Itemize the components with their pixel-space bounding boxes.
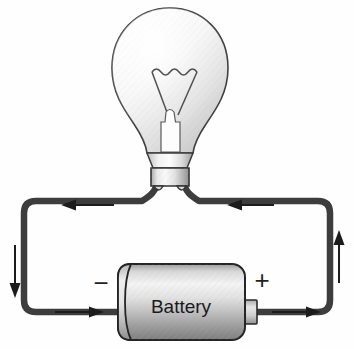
battery-negative-sign: − bbox=[93, 268, 108, 298]
circuit-diagram: Battery − + bbox=[0, 0, 354, 349]
battery-positive-sign: + bbox=[254, 265, 269, 295]
bulb-neck bbox=[147, 153, 193, 168]
circuit-diagram-canvas: Battery − + bbox=[0, 0, 354, 349]
arrow-right-side bbox=[334, 230, 345, 283]
light-bulb bbox=[112, 8, 228, 190]
battery: Battery − + bbox=[93, 264, 269, 340]
arrow-bottom-right bbox=[272, 307, 321, 318]
arrow-bottom-left bbox=[55, 307, 104, 318]
bulb-socket-texture bbox=[151, 168, 189, 186]
battery-label: Battery bbox=[151, 296, 212, 317]
arrow-left-side bbox=[10, 245, 21, 298]
